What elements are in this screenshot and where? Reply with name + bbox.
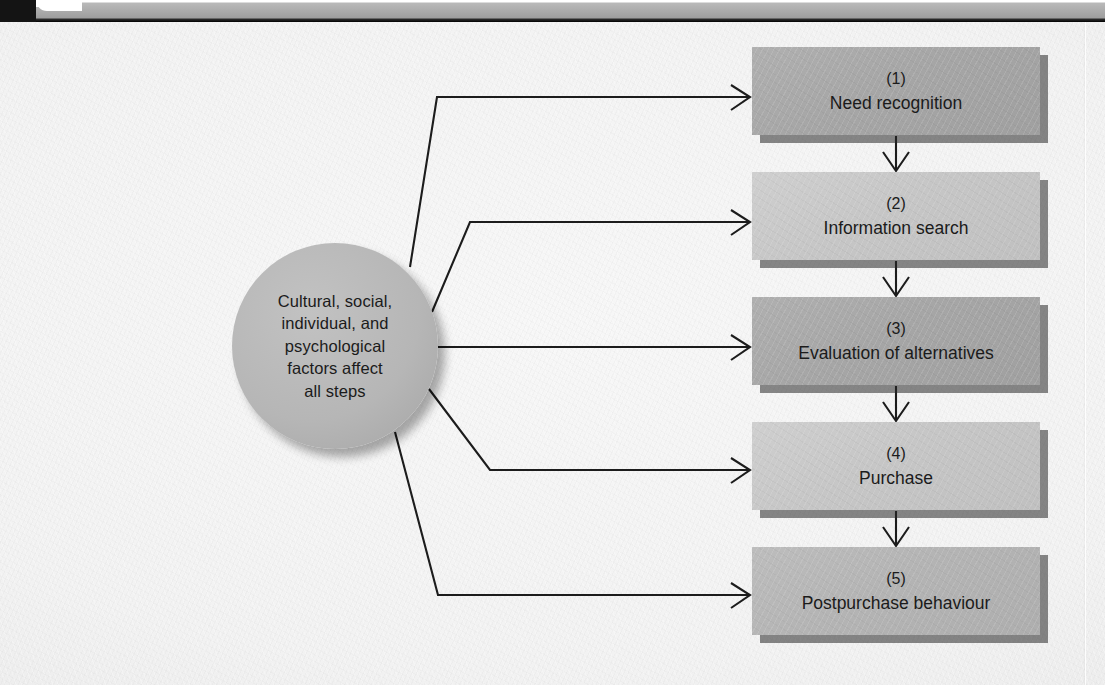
step-box-3-label: (3) Evaluation of alternatives bbox=[798, 316, 994, 366]
step-box-1[interactable]: (1) Need recognition bbox=[752, 47, 1040, 135]
step-box-1-number: (1) bbox=[830, 66, 962, 91]
step-box-1-label: (1) Need recognition bbox=[830, 66, 962, 116]
diagram-page: Cultural, social, individual, and psycho… bbox=[0, 0, 1105, 685]
step-box-2-number: (2) bbox=[824, 191, 969, 216]
step-box-2-title: Information search bbox=[824, 216, 969, 241]
step-box-1-title: Need recognition bbox=[830, 91, 962, 116]
step-box-5[interactable]: (5) Postpurchase behaviour bbox=[752, 547, 1040, 635]
page-corner-notch-fill bbox=[36, 0, 66, 7]
step-box-3-number: (3) bbox=[798, 316, 994, 341]
step-box-5-number: (5) bbox=[802, 566, 991, 591]
page-fold-line bbox=[1085, 22, 1086, 685]
step-box-5-label: (5) Postpurchase behaviour bbox=[802, 566, 991, 616]
step-box-4-number: (4) bbox=[859, 441, 933, 466]
influencing-factors-label: Cultural, social, individual, and psycho… bbox=[250, 290, 420, 403]
influencing-factors-circle: Cultural, social, individual, and psycho… bbox=[232, 243, 438, 449]
step-box-2[interactable]: (2) Information search bbox=[752, 172, 1040, 260]
step-box-2-label: (2) Information search bbox=[824, 191, 969, 241]
page-corner-marker bbox=[0, 0, 36, 22]
step-box-4[interactable]: (4) Purchase bbox=[752, 422, 1040, 510]
page-top-band bbox=[0, 0, 1105, 22]
step-box-4-title: Purchase bbox=[859, 466, 933, 491]
step-box-3-title: Evaluation of alternatives bbox=[798, 341, 994, 366]
step-box-4-label: (4) Purchase bbox=[859, 441, 933, 491]
step-box-3[interactable]: (3) Evaluation of alternatives bbox=[752, 297, 1040, 385]
step-box-5-title: Postpurchase behaviour bbox=[802, 591, 991, 616]
